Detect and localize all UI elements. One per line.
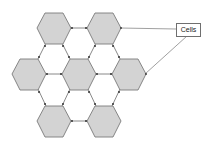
cell-bottom-right xyxy=(87,106,121,137)
node-dot xyxy=(44,103,46,105)
node-dot xyxy=(71,27,73,29)
node-dot xyxy=(120,27,122,29)
cell-bottom-left xyxy=(37,106,71,137)
node-dot xyxy=(112,103,114,105)
node-dot xyxy=(110,73,112,75)
node-dot xyxy=(38,56,40,58)
node-dot xyxy=(85,120,87,122)
node-dot xyxy=(94,103,96,105)
node-dot xyxy=(44,45,46,47)
node-dot xyxy=(96,73,98,75)
node-dot xyxy=(85,27,87,29)
cells-label: Cells xyxy=(176,23,201,37)
node-dot xyxy=(88,91,90,93)
cell-mid-left xyxy=(12,59,46,90)
node-dot xyxy=(68,56,70,58)
node-dot xyxy=(145,73,147,75)
cell-mid-right xyxy=(112,59,146,90)
node-dot xyxy=(62,103,64,105)
callout-line xyxy=(120,28,176,29)
node-dot xyxy=(118,91,120,93)
node-dot xyxy=(62,45,64,47)
node-dot xyxy=(38,91,40,93)
node-dot xyxy=(46,73,48,75)
node-dot xyxy=(112,45,114,47)
cell-top-left xyxy=(37,13,71,44)
cell-mid-center xyxy=(62,59,96,90)
callout-line xyxy=(145,36,187,74)
node-dot xyxy=(68,91,70,93)
node-dot xyxy=(118,56,120,58)
node-dot xyxy=(60,73,62,75)
node-dot xyxy=(94,45,96,47)
node-dot xyxy=(71,120,73,122)
cells xyxy=(12,13,146,137)
cell-top-right xyxy=(87,13,121,44)
node-dot xyxy=(88,56,90,58)
